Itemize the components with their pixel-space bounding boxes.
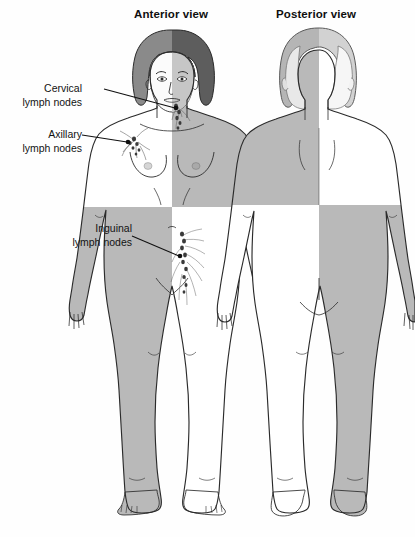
anterior-feet: [118, 490, 226, 515]
title-posterior-view: Posterior view: [276, 8, 356, 20]
posterior-hands: [217, 313, 413, 330]
title-anterior-view: Anterior view: [134, 8, 208, 20]
label-axillary-line1: Axillary: [22, 128, 82, 142]
label-axillary-lymph-nodes: Axillary lymph nodes: [22, 128, 82, 155]
anterior-hands: [69, 312, 273, 329]
anatomy-illustration: [0, 0, 415, 537]
label-axillary-line2: lymph nodes: [22, 142, 82, 156]
label-inguinal-lymph-nodes: Inguinal lymph nodes: [72, 222, 132, 249]
anterior-quadrant-lower-left: [0, 207, 172, 537]
diagram-canvas: Anterior view Posterior view Cervical ly…: [0, 0, 415, 537]
leader-dot-axillary: [126, 140, 131, 145]
label-inguinal-line2: lymph nodes: [72, 236, 132, 250]
leader-dot-inguinal: [178, 254, 183, 259]
label-cervical-line2: lymph nodes: [22, 96, 82, 110]
label-inguinal-line1: Inguinal: [72, 222, 132, 236]
posterior-feet: [271, 490, 367, 516]
leader-dot-cervical: [174, 106, 179, 111]
label-cervical-lymph-nodes: Cervical lymph nodes: [22, 82, 82, 109]
label-cervical-line1: Cervical: [22, 82, 82, 96]
